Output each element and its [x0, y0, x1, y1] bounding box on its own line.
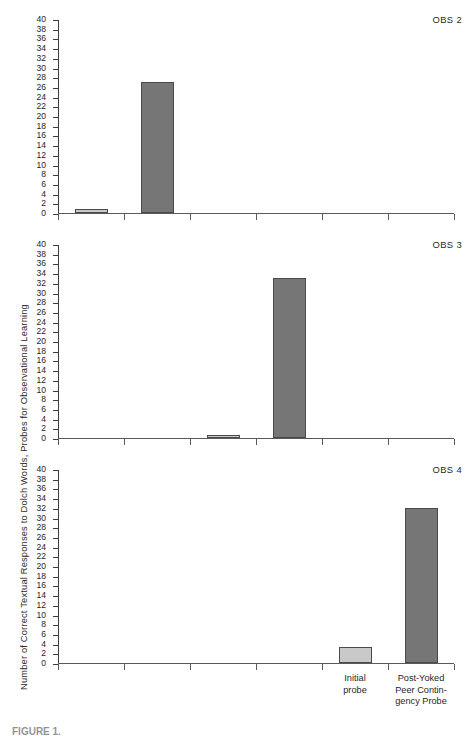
y-tick: 16 [53, 361, 58, 362]
bar-light [339, 647, 372, 663]
y-tick: 30 [53, 519, 58, 520]
y-tick: 32 [53, 284, 58, 285]
y-tick: 36 [53, 39, 58, 40]
panel-obs-4: OBS 4 0246810121416182022242628303234363… [24, 458, 470, 680]
y-tick: 8 [53, 175, 58, 176]
y-tick-label: 16 [24, 355, 46, 366]
y-tick: 20 [53, 117, 58, 118]
x-tick [256, 214, 257, 220]
y-tick-label: 22 [24, 101, 46, 112]
y-tick: 34 [53, 499, 58, 500]
y-tick: 20 [53, 342, 58, 343]
y-tick: 10 [53, 616, 58, 617]
y-tick-label: 28 [24, 297, 46, 308]
y-tick-label: 4 [24, 189, 46, 200]
y-tick: 34 [53, 274, 58, 275]
figure-container: Number of Correct Textual Responses to D… [0, 0, 470, 736]
y-tick: 36 [53, 264, 58, 265]
plot-area-obs-4: 0246810121416182022242628303234363840 [58, 470, 454, 664]
y-tick-label: 30 [24, 288, 46, 299]
y-tick-label: 2 [24, 648, 46, 659]
y-tick-label: 28 [24, 72, 46, 83]
y-tick-label: 36 [24, 258, 46, 269]
y-tick-label: 2 [24, 423, 46, 434]
x-tick [190, 214, 191, 220]
y-tick-label: 20 [24, 336, 46, 347]
y-tick-label: 2 [24, 198, 46, 209]
y-tick: 12 [53, 156, 58, 157]
y-tick-label: 40 [24, 464, 46, 475]
y-tick: 2 [53, 204, 58, 205]
y-tick: 30 [53, 69, 58, 70]
y-tick: 4 [53, 420, 58, 421]
y-tick-label: 6 [24, 404, 46, 415]
y-tick-label: 0 [24, 433, 46, 444]
y-tick: 28 [53, 528, 58, 529]
panel-obs-2: OBS 2 0246810121416182022242628303234363… [24, 8, 470, 230]
y-tick-label: 0 [24, 658, 46, 669]
y-tick-label: 4 [24, 414, 46, 425]
y-tick-label: 40 [24, 239, 46, 250]
bar-dark [273, 278, 306, 438]
plot-area-obs-3: 0246810121416182022242628303234363840 [58, 245, 454, 439]
y-tick-label: 40 [24, 14, 46, 25]
x-category-label: Post-Yoked Peer Contin- gency Probe [376, 673, 466, 708]
y-tick: 24 [53, 323, 58, 324]
x-tick [190, 439, 191, 445]
y-tick-label: 10 [24, 385, 46, 396]
y-tick: 38 [53, 255, 58, 256]
y-tick: 10 [53, 166, 58, 167]
y-tick-label: 16 [24, 580, 46, 591]
y-tick-label: 6 [24, 629, 46, 640]
x-tick [58, 664, 59, 670]
y-tick: 2 [53, 429, 58, 430]
x-tick [124, 214, 125, 220]
bar-dark [405, 508, 438, 663]
y-tick-label: 34 [24, 268, 46, 279]
y-tick: 12 [53, 381, 58, 382]
x-tick [256, 439, 257, 445]
panel-obs-3: OBS 3 0246810121416182022242628303234363… [24, 233, 470, 455]
y-tick: 26 [53, 538, 58, 539]
y-tick: 30 [53, 294, 58, 295]
y-tick-label: 32 [24, 278, 46, 289]
y-tick: 18 [53, 577, 58, 578]
y-axis-title-wrapper: Number of Correct Textual Responses to D… [0, 0, 24, 700]
x-tick [388, 439, 389, 445]
y-tick: 4 [53, 645, 58, 646]
y-tick-label: 24 [24, 317, 46, 328]
y-tick: 22 [53, 557, 58, 558]
y-tick-label: 32 [24, 53, 46, 64]
y-tick: 14 [53, 146, 58, 147]
y-tick: 6 [53, 635, 58, 636]
y-tick-label: 14 [24, 140, 46, 151]
y-tick-label: 26 [24, 82, 46, 93]
y-tick: 36 [53, 489, 58, 490]
y-tick-label: 20 [24, 561, 46, 572]
y-tick: 22 [53, 107, 58, 108]
y-tick: 32 [53, 509, 58, 510]
plot-area-obs-2: 0246810121416182022242628303234363840 [58, 20, 454, 214]
bar-light [75, 209, 108, 213]
x-tick [454, 664, 455, 670]
y-tick-label: 18 [24, 571, 46, 582]
y-tick-label: 36 [24, 483, 46, 494]
y-tick-label: 18 [24, 121, 46, 132]
y-axis-line [58, 470, 59, 664]
y-tick-label: 22 [24, 326, 46, 337]
y-tick: 38 [53, 30, 58, 31]
y-tick-label: 38 [24, 24, 46, 35]
y-tick-label: 18 [24, 346, 46, 357]
y-tick: 18 [53, 352, 58, 353]
y-tick-label: 30 [24, 513, 46, 524]
y-tick: 40 [53, 470, 58, 471]
x-tick [388, 214, 389, 220]
y-tick-label: 14 [24, 590, 46, 601]
y-tick-label: 34 [24, 43, 46, 54]
y-tick: 4 [53, 195, 58, 196]
y-tick: 22 [53, 332, 58, 333]
y-tick-label: 8 [24, 169, 46, 180]
y-tick: 8 [53, 625, 58, 626]
y-tick-label: 36 [24, 33, 46, 44]
y-tick-label: 22 [24, 551, 46, 562]
